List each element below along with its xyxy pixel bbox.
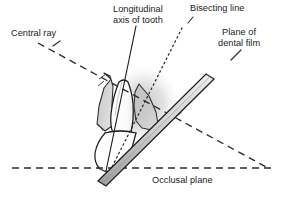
- leader-central-ray: [53, 41, 60, 46]
- leader-film-plane: [231, 50, 241, 60]
- leader-bisecting-line: [188, 17, 193, 23]
- label-plane-of-dental-film: Plane of dental film: [218, 27, 260, 48]
- label-bisecting-line: Bisecting line: [190, 3, 244, 14]
- label-central-ray: Central ray: [11, 28, 56, 39]
- label-longitudinal-axis: Longitudinal axis of tooth: [113, 4, 163, 25]
- tooth-root: [111, 80, 134, 133]
- label-occlusal-plane: Occlusal plane: [152, 175, 213, 186]
- bisecting-angle-diagram: Central ray Longitudinal axis of tooth B…: [0, 0, 285, 206]
